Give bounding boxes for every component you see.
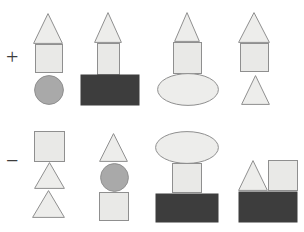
figure-triangle-square-darkrect-square-middle bbox=[97, 43, 120, 75]
figure-square-triangle-triangle-square-top bbox=[34, 131, 65, 162]
figure-ellipse-rect-darkrect-ellipse-top bbox=[155, 131, 219, 164]
triangle-bottom-shape bbox=[242, 76, 270, 105]
square-top-shape bbox=[35, 132, 65, 162]
figure-square-triangle-triangle-triangle-middle bbox=[34, 162, 65, 189]
triangle-top-shape bbox=[175, 13, 200, 42]
rectangle-middle-shape bbox=[173, 164, 202, 193]
square-top-right-shape bbox=[269, 161, 298, 191]
circle-bottom-shape bbox=[35, 76, 64, 105]
triangle-bottom-shape bbox=[33, 191, 65, 218]
figure-triangle-square-circle-square-middle bbox=[35, 44, 63, 73]
triangle-top-shape bbox=[34, 14, 63, 44]
dark-rectangle-bottom-shape bbox=[156, 194, 219, 223]
diagram-canvas: + − bbox=[0, 0, 304, 232]
figure-ellipse-rect-darkrect-dark-rectangle-bottom bbox=[155, 193, 219, 223]
ellipse-top-shape bbox=[156, 132, 219, 164]
figure-triangle-square-ellipse-ellipse-bottom bbox=[157, 73, 219, 106]
figure-triangle-square-ellipse-square-middle bbox=[173, 42, 202, 74]
figure-triangle-square-darkrect-square-top-right bbox=[268, 160, 298, 191]
figure-triangle-square-darkrect-dark-rectangle-bottom bbox=[80, 74, 140, 106]
figure-square-triangle-triangle-triangle-bottom bbox=[32, 190, 65, 218]
figure-triangle-circle-square-circle-middle bbox=[100, 163, 129, 192]
triangle-top-shape bbox=[239, 13, 270, 43]
triangle-top-shape bbox=[95, 13, 122, 43]
minus-sign: − bbox=[6, 150, 18, 172]
square-middle-shape bbox=[241, 44, 269, 72]
square-middle-shape bbox=[36, 45, 63, 73]
figure-triangle-square-triangle-triangle-bottom bbox=[241, 75, 270, 105]
figure-triangle-circle-square-square-bottom bbox=[99, 192, 129, 221]
figure-triangle-square-ellipse-triangle-top bbox=[174, 12, 200, 42]
figure-triangle-square-circle-triangle-top bbox=[33, 13, 63, 44]
figure-triangle-square-darkrect-triangle-top bbox=[94, 12, 122, 43]
plus-sign: + bbox=[6, 46, 18, 68]
figure-ellipse-rect-darkrect-rectangle-middle bbox=[172, 163, 202, 193]
figure-triangle-square-triangle-square-middle bbox=[240, 43, 269, 72]
triangle-top-shape bbox=[100, 134, 128, 162]
dark-rectangle-bottom-shape bbox=[81, 75, 140, 106]
square-middle-shape bbox=[174, 43, 202, 74]
figure-triangle-square-circle-circle-bottom bbox=[34, 75, 64, 105]
figure-triangle-circle-square-triangle-top bbox=[99, 133, 128, 162]
figure-triangle-square-darkrect-dark-rectangle-bottom bbox=[238, 191, 298, 223]
figure-triangle-square-triangle-triangle-top bbox=[238, 12, 270, 43]
dark-rectangle-bottom-shape bbox=[239, 192, 298, 223]
triangle-middle-shape bbox=[35, 163, 65, 189]
square-bottom-shape bbox=[100, 193, 129, 221]
figure-triangle-square-darkrect-triangle-top-left bbox=[238, 160, 268, 191]
ellipse-bottom-shape bbox=[158, 74, 219, 106]
square-middle-shape bbox=[98, 44, 120, 75]
triangle-top-left-shape bbox=[239, 161, 268, 191]
circle-middle-shape bbox=[101, 164, 129, 192]
